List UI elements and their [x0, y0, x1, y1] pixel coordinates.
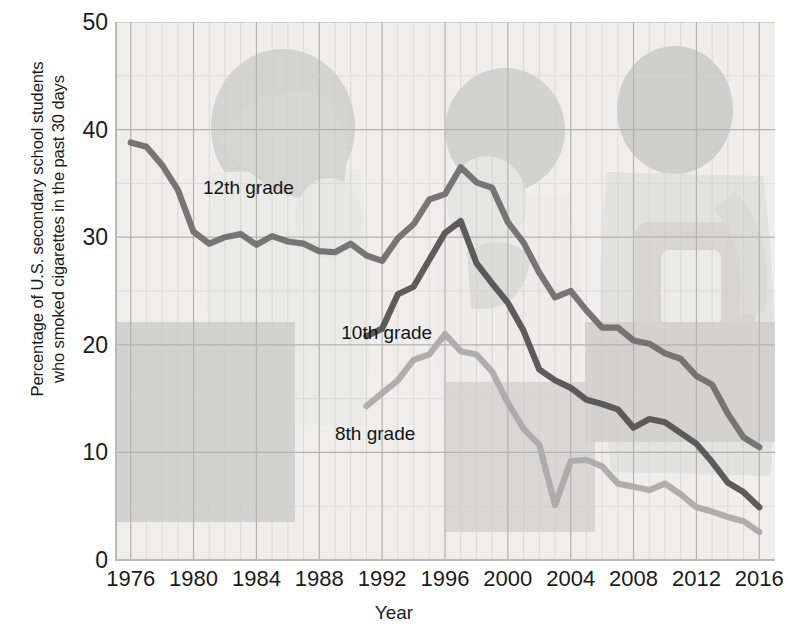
- y-tick-label: 10: [60, 439, 108, 466]
- y-tick-label: 20: [60, 331, 108, 358]
- x-tick-label: 1984: [232, 566, 281, 592]
- data-series-lines: [115, 22, 775, 560]
- series-label-10th-grade: 10th grade: [341, 322, 432, 344]
- x-tick-label: 2008: [609, 566, 658, 592]
- y-axis-title-line-1: Percentage of U.S. secondary school stud…: [27, 62, 48, 397]
- y-axis-spine: [115, 22, 117, 560]
- x-tick-label: 1988: [295, 566, 344, 592]
- y-tick-label: 40: [60, 116, 108, 143]
- x-tick-label: 2016: [735, 566, 784, 592]
- y-tick-label: 0: [60, 547, 108, 574]
- x-tick-label: 2000: [483, 566, 532, 592]
- x-tick-label: 1976: [106, 566, 155, 592]
- y-tick-label: 30: [60, 224, 108, 251]
- x-tick-label: 2012: [672, 566, 721, 592]
- x-axis-ticks: 1976198019841988199219962000200420082012…: [115, 566, 775, 600]
- x-tick-label: 1992: [358, 566, 407, 592]
- x-axis-title: Year: [0, 602, 788, 624]
- x-tick-label: 1980: [169, 566, 218, 592]
- x-axis-spine: [115, 559, 775, 561]
- chart-figure: Percentage of U.S. secondary school stud…: [0, 0, 788, 636]
- plot-area: [115, 22, 775, 560]
- series-label-12th-grade: 12th grade: [203, 177, 294, 199]
- x-tick-label: 1996: [421, 566, 470, 592]
- y-tick-label: 50: [60, 9, 108, 36]
- series-label-8th-grade: 8th grade: [335, 423, 415, 445]
- x-tick-label: 2004: [546, 566, 595, 592]
- y-axis-ticks: 01020304050: [58, 0, 108, 636]
